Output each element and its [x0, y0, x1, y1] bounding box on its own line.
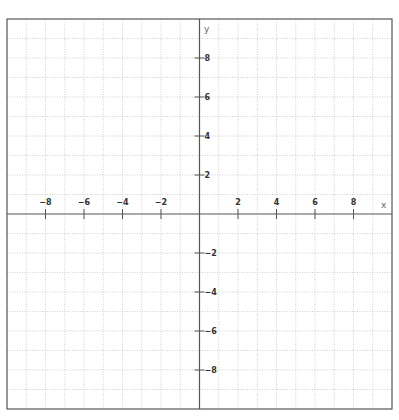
y-tick-label: 8 [205, 54, 211, 63]
y-tick-label: 4 [205, 132, 211, 141]
y-tick-label: −2 [205, 249, 217, 258]
y-tick-label: −4 [205, 288, 218, 297]
y-tick-label: −6 [205, 327, 218, 336]
x-tick-label: 4 [274, 198, 280, 207]
x-tick-label: −2 [155, 198, 167, 207]
y-tick-label: 2 [205, 171, 211, 180]
x-tick-label: 6 [312, 198, 318, 207]
x-axis-label: x [381, 200, 387, 210]
x-tick-label: 2 [235, 198, 241, 207]
y-axis-label: y [204, 24, 210, 34]
y-tick-label: 6 [205, 93, 211, 102]
y-tick-label: −8 [205, 366, 218, 375]
x-tick-label: −8 [39, 198, 52, 207]
x-tick-label: −4 [116, 198, 129, 207]
coordinate-plane: −8−6−4−22468−8−6−4−22468 x y [0, 0, 399, 420]
x-tick-label: 8 [351, 198, 357, 207]
x-tick-label: −6 [78, 198, 91, 207]
